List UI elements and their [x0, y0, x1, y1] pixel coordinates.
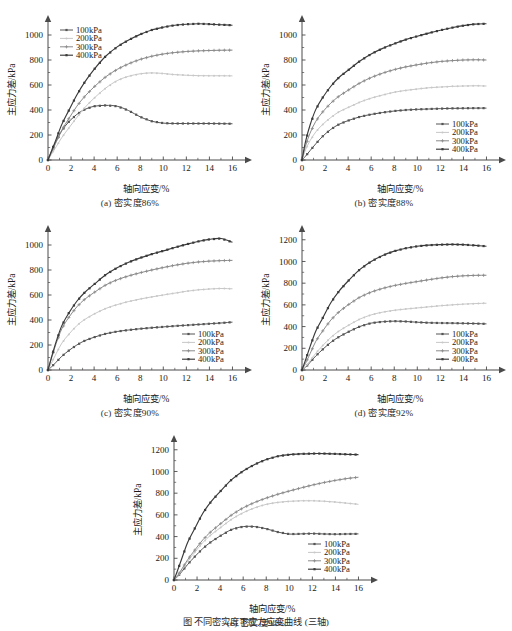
svg-text:轴向应变/%: 轴向应变/% — [249, 603, 296, 614]
svg-text:4: 4 — [346, 373, 351, 383]
svg-text:400: 400 — [284, 322, 298, 332]
svg-text:主应力差/kPa: 主应力差/kPa — [132, 483, 143, 537]
svg-text:400: 400 — [30, 315, 44, 325]
svg-text:8: 8 — [392, 163, 397, 173]
svg-text:8: 8 — [392, 373, 397, 383]
svg-text:200: 200 — [30, 130, 44, 140]
svg-text:16: 16 — [354, 583, 364, 593]
svg-text:200: 200 — [156, 553, 170, 563]
svg-text:800: 800 — [30, 55, 44, 65]
svg-text:主应力差/kPa: 主应力差/kPa — [260, 63, 271, 117]
svg-text:6: 6 — [115, 163, 120, 173]
svg-text:1000: 1000 — [151, 467, 170, 477]
svg-text:2: 2 — [69, 373, 74, 383]
chart-plot-e: 0200400600800100012000246810121416轴向应变/%… — [130, 428, 382, 616]
svg-text:1000: 1000 — [279, 30, 298, 40]
svg-text:0: 0 — [46, 163, 51, 173]
svg-text:1000: 1000 — [25, 30, 44, 40]
svg-text:600: 600 — [30, 290, 44, 300]
svg-text:600: 600 — [284, 80, 298, 90]
figure-bottom-caption: 图 不同密实度下应力应变曲线 (三轴) — [0, 614, 512, 628]
series-line-100kPa — [48, 105, 232, 160]
svg-text:800: 800 — [284, 278, 298, 288]
svg-text:6: 6 — [115, 373, 120, 383]
svg-text:12: 12 — [308, 583, 317, 593]
chart-svg-b: 020040060080010000246810121416轴向应变/%主应力差… — [258, 8, 510, 196]
svg-text:轴向应变/%: 轴向应变/% — [123, 393, 170, 404]
svg-text:0: 0 — [293, 365, 298, 375]
svg-text:0: 0 — [39, 155, 44, 165]
svg-text:1200: 1200 — [279, 235, 298, 245]
svg-text:400: 400 — [156, 532, 170, 542]
svg-text:4: 4 — [92, 373, 97, 383]
svg-text:16: 16 — [482, 163, 492, 173]
legend-label-400kPa: 400kPa — [76, 50, 102, 60]
svg-text:8: 8 — [264, 583, 269, 593]
svg-text:10: 10 — [285, 583, 295, 593]
chart-caption-d: (d) 密实度92% — [258, 405, 510, 419]
svg-text:4: 4 — [92, 163, 97, 173]
svg-text:14: 14 — [459, 163, 469, 173]
legend-label-400kPa: 400kPa — [452, 144, 478, 154]
svg-text:0: 0 — [165, 575, 170, 585]
svg-text:12: 12 — [182, 373, 191, 383]
chart-legend: 100kPa200kPa300kPa400kPa — [436, 329, 478, 364]
svg-text:14: 14 — [205, 163, 215, 173]
svg-text:10: 10 — [413, 373, 423, 383]
svg-text:8: 8 — [138, 163, 143, 173]
svg-text:400: 400 — [284, 105, 298, 115]
chart-caption-c: (c) 密实度90% — [4, 405, 256, 419]
svg-text:8: 8 — [138, 373, 143, 383]
svg-text:800: 800 — [284, 55, 298, 65]
svg-text:2: 2 — [323, 163, 328, 173]
svg-text:0: 0 — [39, 365, 44, 375]
svg-text:0: 0 — [172, 583, 177, 593]
chart-plot-b: 020040060080010000246810121416轴向应变/%主应力差… — [258, 8, 510, 196]
chart-panel-e: 0200400600800100012000246810121416轴向应变/%… — [130, 428, 382, 629]
svg-text:12: 12 — [436, 163, 445, 173]
svg-text:1200: 1200 — [151, 445, 170, 455]
svg-text:16: 16 — [228, 163, 238, 173]
svg-text:0: 0 — [300, 373, 305, 383]
chart-svg-e: 0200400600800100012000246810121416轴向应变/%… — [130, 428, 382, 616]
chart-svg-d: 0200400600800100012000246810121416轴向应变/%… — [258, 218, 510, 406]
svg-text:10: 10 — [413, 163, 423, 173]
svg-text:0: 0 — [293, 155, 298, 165]
svg-text:6: 6 — [369, 163, 374, 173]
svg-text:轴向应变/%: 轴向应变/% — [377, 393, 424, 404]
svg-text:12: 12 — [182, 163, 191, 173]
svg-text:2: 2 — [323, 373, 328, 383]
svg-text:轴向应变/%: 轴向应变/% — [377, 183, 424, 194]
svg-text:14: 14 — [331, 583, 341, 593]
chart-panel-d: 0200400600800100012000246810121416轴向应变/%… — [258, 218, 510, 419]
chart-legend: 100kPa200kPa300kPa400kPa — [308, 539, 350, 574]
svg-text:1000: 1000 — [279, 257, 298, 267]
chart-svg-c: 020040060080010000246810121416轴向应变/%主应力差… — [4, 218, 256, 406]
chart-svg-a: 020040060080010000246810121416轴向应变/%主应力差… — [4, 8, 256, 196]
svg-text:800: 800 — [156, 488, 170, 498]
svg-text:10: 10 — [159, 373, 169, 383]
chart-plot-a: 020040060080010000246810121416轴向应变/%主应力差… — [4, 8, 256, 196]
figure-sheet: 020040060080010000246810121416轴向应变/%主应力差… — [0, 0, 512, 631]
legend-label-400kPa: 400kPa — [198, 354, 224, 364]
chart-legend: 100kPa200kPa300kPa400kPa — [182, 329, 224, 364]
chart-plot-c: 020040060080010000246810121416轴向应变/%主应力差… — [4, 218, 256, 406]
svg-text:14: 14 — [205, 373, 215, 383]
svg-text:0: 0 — [46, 373, 51, 383]
svg-text:4: 4 — [346, 163, 351, 173]
chart-plot-d: 0200400600800100012000246810121416轴向应变/%… — [258, 218, 510, 406]
svg-text:2: 2 — [195, 583, 200, 593]
svg-text:200: 200 — [30, 340, 44, 350]
svg-text:1000: 1000 — [25, 240, 44, 250]
svg-text:600: 600 — [284, 300, 298, 310]
svg-text:200: 200 — [284, 343, 298, 353]
svg-text:16: 16 — [482, 373, 492, 383]
chart-caption-a: (a) 密实度86% — [4, 195, 256, 209]
chart-panel-a: 020040060080010000246810121416轴向应变/%主应力差… — [4, 8, 256, 209]
svg-text:主应力差/kPa: 主应力差/kPa — [6, 63, 17, 117]
chart-caption-b: (b) 密实度88% — [258, 195, 510, 209]
svg-text:16: 16 — [228, 373, 238, 383]
svg-text:600: 600 — [156, 510, 170, 520]
svg-text:6: 6 — [369, 373, 374, 383]
chart-panel-c: 020040060080010000246810121416轴向应变/%主应力差… — [4, 218, 256, 419]
